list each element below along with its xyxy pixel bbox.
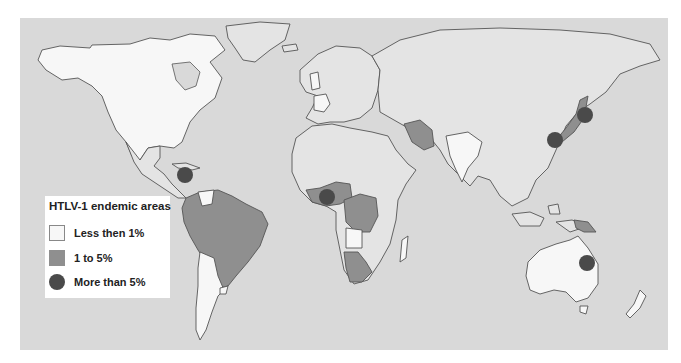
new-zealand [626,290,646,318]
asia [372,28,660,206]
dark-circle-swatch [49,274,65,290]
south-america-endemic [182,190,268,288]
papua-new-guinea [574,220,596,232]
map-legend: HTLV-1 endemic areas Less then 1% 1 to 5… [45,196,170,298]
angola [346,228,362,248]
world-map-svg [20,18,668,350]
uk [310,72,320,90]
madagascar [400,236,408,262]
legend-label: More than 5% [74,276,146,288]
marker-west-africa [319,189,335,205]
marker-australia [579,255,595,271]
legend-label: 1 to 5% [74,252,113,264]
legend-label: Less then 1% [74,227,144,239]
white-square-swatch [49,225,65,241]
tasmania [580,306,588,314]
marker-caribbean [177,167,193,183]
greenland [226,22,290,62]
legend-item-mid: 1 to 5% [49,250,113,266]
world-map [20,18,668,350]
marker-southern-japan [547,132,563,148]
legend-title: HTLV-1 endemic areas [49,200,171,212]
north-america [38,34,225,160]
iceland [282,44,298,52]
gray-square-swatch [49,250,65,266]
legend-item-low: Less then 1% [49,225,144,241]
legend-item-high: More than 5% [49,274,146,290]
marker-northern-japan [577,107,593,123]
